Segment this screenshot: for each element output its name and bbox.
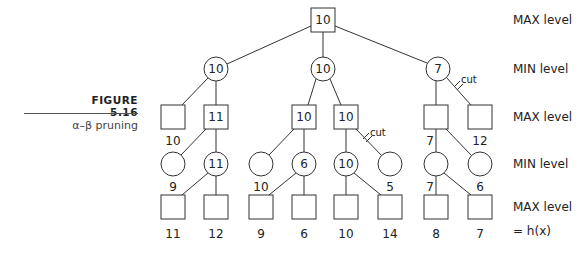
svg-text:10: 10 [338,157,353,171]
svg-text:10: 10 [253,180,268,194]
svg-text:10: 10 [296,110,311,124]
svg-text:10: 10 [338,110,353,124]
min-node: 6 [292,152,316,176]
min-node: 11 [204,152,228,176]
leaf-node: 8 [424,195,448,241]
alpha-beta-tree-diagram: cut cut 10 10 10 7 10 11 10 10 [0,0,588,256]
svg-text:7: 7 [426,180,434,194]
svg-text:7: 7 [434,62,442,76]
min-node-pruned: 5 [378,152,402,194]
max-node: 10 [161,105,185,148]
level-label: MAX level [513,110,572,124]
level-label: MIN level [513,157,568,171]
max-node: 10 [334,105,358,129]
leaf-node: 9 [249,195,273,241]
leaf-node: 12 [204,195,228,241]
level-label: MAX level [513,200,572,214]
max-node-pruned: 12 [468,105,492,148]
svg-text:11: 11 [208,157,223,171]
cut-mark-right: cut [454,74,477,90]
svg-text:6: 6 [300,157,308,171]
level-label: MAX level [513,13,572,27]
svg-text:6: 6 [300,227,308,241]
svg-text:7: 7 [476,227,484,241]
svg-text:8: 8 [432,227,440,241]
leaf-node: 11 [161,195,185,241]
max-node: 10 [292,105,316,129]
svg-text:12: 12 [472,134,487,148]
leaf-node: 7 [468,195,492,241]
min-node: 10 [204,57,228,81]
svg-text:10: 10 [165,134,180,148]
heuristic-label: = h(x) [513,224,551,238]
svg-text:11: 11 [165,227,180,241]
max-node: 11 [204,105,228,129]
leaf-node: 6 [292,195,316,241]
level-labels: MAX level MIN level MAX level MIN level … [513,13,572,238]
leaf-node: 14 [378,195,402,241]
svg-text:6: 6 [476,180,484,194]
root-max-node: 10 [311,8,335,32]
svg-text:10: 10 [315,62,330,76]
svg-text:9: 9 [257,227,265,241]
min-node: 9 [161,152,185,194]
svg-text:9: 9 [169,180,177,194]
svg-text:12: 12 [208,227,223,241]
svg-text:10: 10 [338,227,353,241]
min-node: 10 [334,152,358,176]
svg-text:14: 14 [382,227,397,241]
level-label: MIN level [513,62,568,76]
svg-text:7: 7 [426,134,434,148]
leaf-node: 10 [334,195,358,241]
svg-text:10: 10 [315,13,330,27]
min-node: 6 [468,152,492,194]
svg-text:5: 5 [386,180,394,194]
cut-label: cut [370,127,386,138]
min-node: 10 [311,57,335,81]
min-node: 7 [426,57,450,81]
svg-text:10: 10 [208,62,223,76]
svg-text:11: 11 [208,110,223,124]
min-node: 10 [249,152,273,194]
cut-label: cut [461,74,477,85]
